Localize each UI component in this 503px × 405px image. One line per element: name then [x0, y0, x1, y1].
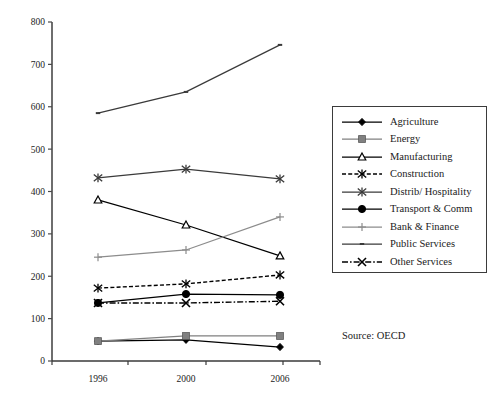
legend-key-public-services: [340, 236, 384, 252]
legend-key-construction: [340, 166, 384, 182]
legend-key-transport-comm: [340, 201, 384, 217]
source-note: Source: OECD: [342, 330, 405, 341]
legend-key-energy: [340, 131, 384, 147]
legend-label-transport-comm: Transport & Comm: [390, 204, 472, 215]
series-transport-comm: [94, 290, 283, 306]
svg-text:800: 800: [31, 17, 46, 27]
svg-text:300: 300: [31, 229, 46, 239]
svg-text:200: 200: [31, 272, 46, 282]
chart-figure: 0100200300400500600700800 199620002006 A…: [0, 0, 503, 405]
legend-label-energy: Energy: [390, 134, 420, 145]
legend-key-distrib-hospitality: [340, 184, 384, 200]
svg-text:100: 100: [31, 314, 46, 324]
series-energy: [95, 333, 284, 345]
legend-item: Transport & Comm: [333, 201, 486, 219]
series-bank-finance: [94, 213, 284, 261]
legend-key-bank-finance: [340, 219, 384, 235]
chart-legend: Agriculture Energy Manufacturing Constru…: [332, 106, 487, 273]
legend-item: Energy: [333, 131, 486, 149]
svg-text:700: 700: [31, 60, 46, 70]
svg-text:1996: 1996: [89, 374, 108, 384]
legend-label-public-services: Public Services: [390, 239, 455, 250]
legend-item: Manufacturing: [333, 148, 486, 166]
legend-key-agriculture: [340, 114, 384, 130]
series-public-services: [96, 44, 282, 114]
legend-item: Construction: [333, 166, 486, 184]
legend-item: Public Services: [333, 236, 486, 254]
series-other-services: [94, 297, 284, 307]
series-construction: [94, 271, 284, 293]
x-axis-tick-labels: 199620002006: [89, 374, 290, 384]
legend-label-other-services: Other Services: [390, 257, 452, 268]
legend-key-manufacturing: [340, 149, 384, 165]
legend-item: Agriculture: [333, 113, 486, 131]
legend-label-agriculture: Agriculture: [390, 117, 438, 128]
y-axis-tick-labels: 0100200300400500600700800: [31, 17, 46, 366]
svg-text:2006: 2006: [271, 374, 290, 384]
svg-text:400: 400: [31, 187, 46, 197]
svg-text:500: 500: [31, 145, 46, 155]
chart-series-layer: [94, 44, 284, 351]
legend-item: Other Services: [333, 253, 486, 271]
legend-label-distrib-hospitality: Distrib/ Hospitality: [390, 187, 471, 198]
svg-text:2000: 2000: [177, 374, 196, 384]
legend-label-manufacturing: Manufacturing: [390, 152, 452, 163]
legend-key-other-services: [340, 254, 384, 270]
legend-label-construction: Construction: [390, 169, 444, 180]
svg-text:0: 0: [40, 356, 45, 366]
chart-axes: [48, 22, 320, 365]
legend-label-bank-finance: Bank & Finance: [390, 222, 459, 233]
svg-text:600: 600: [31, 102, 46, 112]
legend-item: Distrib/ Hospitality: [333, 183, 486, 201]
series-distrib-hospitality: [94, 165, 284, 184]
legend-item: Bank & Finance: [333, 218, 486, 236]
